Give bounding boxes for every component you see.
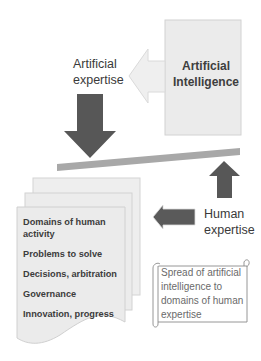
document-item: Innovation, progress — [23, 308, 127, 320]
ai-box-label: Artificial Intelligence — [165, 58, 247, 90]
artificial-expertise-label: Artificial expertise — [73, 56, 129, 88]
down-arrow-icon — [64, 94, 116, 158]
document-item: Domains of human activity — [23, 216, 127, 240]
left-arrow-icon — [153, 205, 195, 229]
ai-to-expertise-arrow-icon — [129, 49, 165, 103]
up-arrow-icon — [209, 161, 240, 198]
document-item: Governance — [23, 288, 127, 300]
document-item: Problems to solve — [23, 248, 127, 260]
document-item: Decisions, arbitration — [23, 268, 127, 280]
human-expertise-label: Human expertise — [204, 206, 260, 238]
scroll-caption: Spread of artificial intelligence to dom… — [161, 266, 249, 322]
document-items-list: Domains of human activity Problems to so… — [23, 216, 127, 328]
